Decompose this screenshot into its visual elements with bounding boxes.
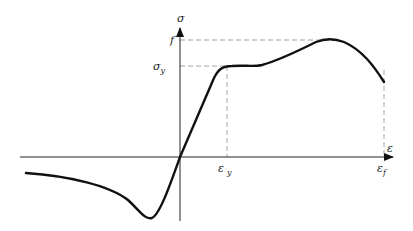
y-axis-label: σ <box>177 12 185 25</box>
sigma-y-label: σy <box>153 60 166 75</box>
eps-y-label: εy <box>218 162 232 177</box>
stress-strain-diagram: σ f σy ε εy εf <box>0 0 413 231</box>
f-label: f <box>169 34 176 47</box>
eps-f-label: εf <box>377 162 388 177</box>
x-axis-label: ε <box>387 142 393 155</box>
